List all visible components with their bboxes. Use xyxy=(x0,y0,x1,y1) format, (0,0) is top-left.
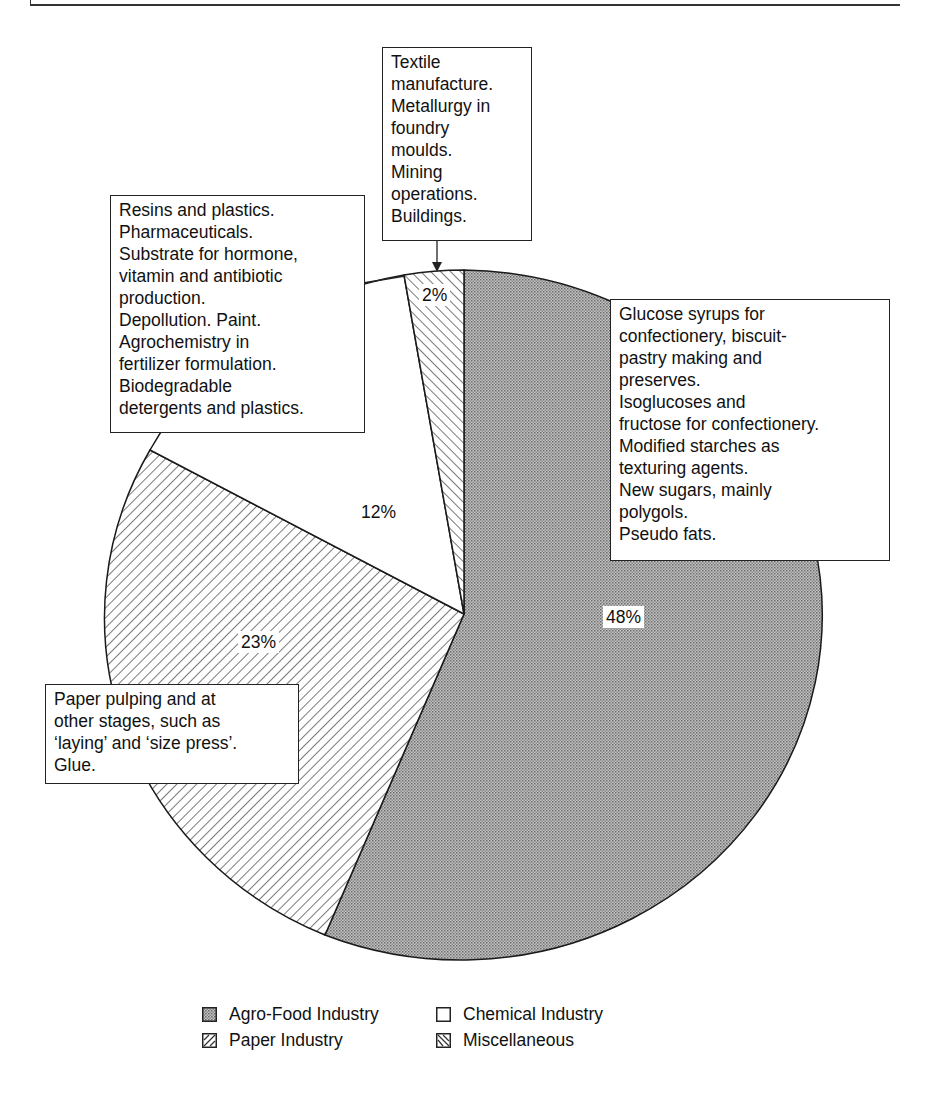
empty-swatch-icon xyxy=(436,1007,451,1022)
label-misc-percent: 2% xyxy=(419,284,450,306)
callout-agro-food: Glucose syrups for confectionery, biscui… xyxy=(610,299,890,561)
forward-hatch-swatch-icon xyxy=(202,1033,217,1048)
label-agro-percent: 48% xyxy=(603,606,644,628)
legend-label-agro-food: Agro-Food Industry xyxy=(229,1004,379,1025)
callout-chemical: Resins and plastics. Pharmaceuticals. Su… xyxy=(110,195,365,433)
legend-item-paper: Paper Industry xyxy=(202,1030,343,1051)
legend-label-miscellaneous: Miscellaneous xyxy=(463,1030,574,1051)
backward-hatch-swatch-icon xyxy=(436,1033,451,1048)
label-chemical-percent: 12% xyxy=(358,501,399,523)
legend-item-miscellaneous: Miscellaneous xyxy=(436,1030,574,1051)
legend-item-chemical: Chemical Industry xyxy=(436,1004,603,1025)
legend-label-chemical: Chemical Industry xyxy=(463,1004,603,1025)
legend-label-paper: Paper Industry xyxy=(229,1030,343,1051)
label-paper-percent: 23% xyxy=(238,631,279,653)
callout-miscellaneous: Textile manufacture. Metallurgy in found… xyxy=(382,47,532,241)
legend-item-agro-food: Agro-Food Industry xyxy=(202,1004,379,1025)
callout-paper: Paper pulping and at other stages, such … xyxy=(45,684,299,784)
dots-swatch-icon xyxy=(202,1007,217,1022)
